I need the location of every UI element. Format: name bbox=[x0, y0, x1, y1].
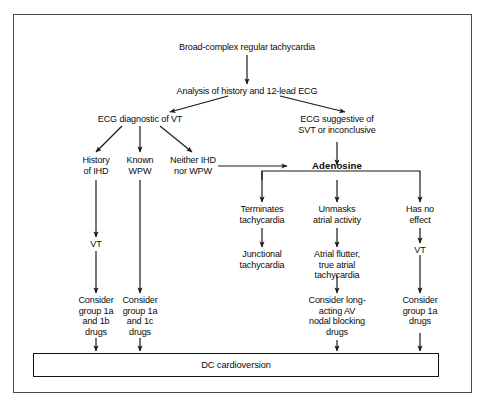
node-junctional-tachycardia: Junctional tachycardia bbox=[240, 249, 285, 270]
node-known-wpw: Known WPW bbox=[126, 155, 153, 176]
node-vt-right: VT bbox=[414, 245, 425, 256]
node-consider-group-1a: Consider group 1a drugs bbox=[402, 295, 437, 327]
node-consider-group-1a-1c: Consider group 1a and 1c drugs bbox=[122, 295, 157, 337]
dc-cardioversion-box: DC cardioversion bbox=[33, 353, 439, 377]
node-terminates-tachycardia: Terminates tachycardia bbox=[240, 204, 285, 225]
node-neither-ihd-nor-wpw: Neither IHD nor WPW bbox=[170, 155, 216, 176]
node-has-no-effect: Has no effect bbox=[406, 204, 434, 225]
node-unmasks-atrial-activity: Unmasks atrial activity bbox=[313, 204, 361, 225]
figure-page: Broad-complex regular tachycardia Analys… bbox=[0, 0, 486, 411]
node-consider-group-1a-1b: Consider group 1a and 1b drugs bbox=[78, 295, 113, 337]
dc-cardioversion-label: DC cardioversion bbox=[201, 360, 271, 370]
node-atrial-flutter: Atrial flutter, true atrial tachycardia bbox=[314, 249, 360, 281]
node-vt-left: VT bbox=[90, 239, 101, 250]
node-consider-av-nodal-blocking: Consider long- acting AV nodal blocking … bbox=[308, 295, 365, 337]
node-ecg-diagnostic-vt: ECG diagnostic of VT bbox=[98, 114, 182, 125]
node-root: Broad-complex regular tachycardia bbox=[179, 42, 315, 53]
node-analysis: Analysis of history and 12-lead ECG bbox=[177, 86, 318, 97]
node-adenosine: Adenosine bbox=[312, 161, 362, 172]
node-ecg-suggestive-svt: ECG suggestive of SVT or inconclusive bbox=[298, 114, 375, 135]
node-history-of-ihd: History of IHD bbox=[82, 155, 109, 176]
